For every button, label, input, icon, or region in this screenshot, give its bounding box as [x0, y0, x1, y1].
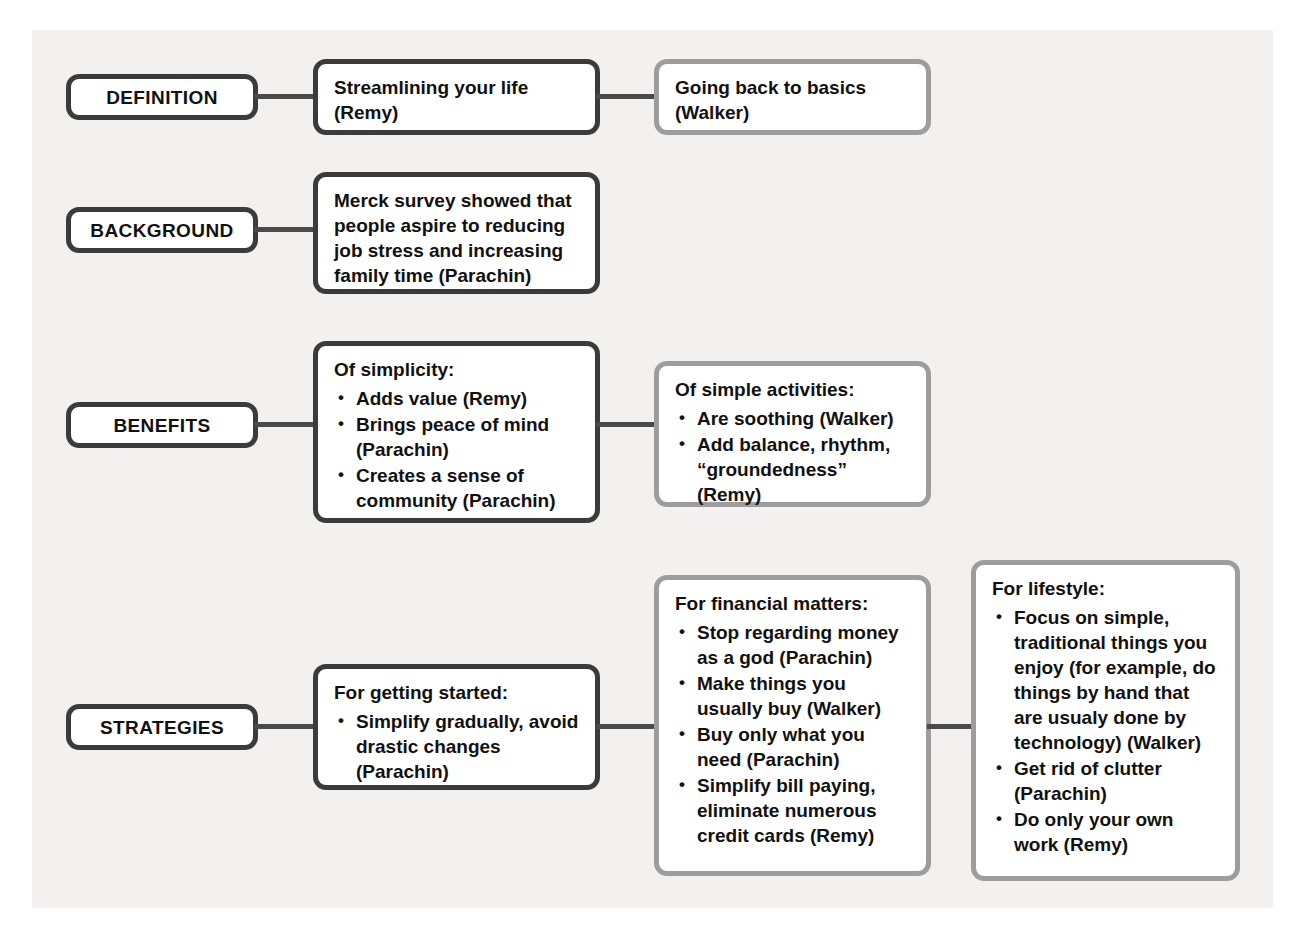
node-heading: For financial matters:: [675, 591, 912, 616]
connector-definition-to-box1: [254, 94, 316, 99]
category-label-text: STRATEGIES: [100, 715, 224, 740]
node-strategies-financial-matters: For financial matters: Stop regarding mo…: [654, 575, 931, 876]
node-heading: For getting started:: [334, 680, 581, 705]
category-label-text: BACKGROUND: [90, 218, 233, 243]
node-bullet-item: Adds value (Remy): [334, 386, 581, 411]
node-benefits-simple-activities: Of simple activities: Are soothing (Walk…: [654, 361, 931, 507]
connector-benefits-to-box1: [254, 422, 316, 427]
node-definition-streamlining: Streamlining your life (Remy): [313, 59, 600, 135]
node-bullet-list: Are soothing (Walker)Add balance, rhythm…: [675, 406, 912, 507]
connector-definition-box1-to-box2: [596, 94, 658, 99]
node-bullet-item: Simplify gradually, avoid drastic change…: [334, 709, 581, 784]
node-bullet-item: Make things you usually buy (Walker): [675, 671, 912, 721]
node-bullet-item: Simplify bill paying, eliminate numerous…: [675, 773, 912, 848]
node-bullet-item: Creates a sense of community (Parachin): [334, 463, 581, 513]
node-bullet-list: Simplify gradually, avoid drastic change…: [334, 709, 581, 784]
connector-strategies-box1-to-box2: [596, 724, 658, 729]
category-label-background: BACKGROUND: [66, 207, 258, 253]
node-bullet-item: Focus on simple, traditional things you …: [992, 605, 1221, 755]
node-definition-basics: Going back to basics (Walker): [654, 59, 931, 135]
node-background-merck-survey: Merck survey showed that people aspire t…: [313, 172, 600, 294]
category-label-text: DEFINITION: [106, 85, 218, 110]
node-bullet-item: Add balance, rhythm, “groundedness” (Rem…: [675, 432, 912, 507]
category-label-benefits: BENEFITS: [66, 402, 258, 448]
connector-benefits-box1-to-box2: [596, 422, 658, 427]
node-benefits-of-simplicity: Of simplicity: Adds value (Remy)Brings p…: [313, 341, 600, 523]
node-bullet-list: Stop regarding money as a god (Parachin)…: [675, 620, 912, 848]
node-bullet-item: Get rid of clutter (Parachin): [992, 756, 1221, 806]
node-text: Streamlining your life (Remy): [334, 75, 581, 125]
node-strategies-lifestyle: For lifestyle: Focus on simple, traditio…: [971, 560, 1240, 881]
node-text: Going back to basics (Walker): [675, 75, 912, 125]
connector-strategies-to-box1: [254, 724, 316, 729]
node-heading: For lifestyle:: [992, 576, 1221, 601]
connector-strategies-box2-to-box3: [927, 724, 975, 729]
category-label-definition: DEFINITION: [66, 74, 258, 120]
node-heading: Of simple activities:: [675, 377, 912, 402]
node-bullet-item: Buy only what you need (Parachin): [675, 722, 912, 772]
concept-map-canvas: DEFINITION Streamlining your life (Remy)…: [0, 0, 1303, 940]
connector-background-to-box1: [254, 227, 316, 232]
node-strategies-getting-started: For getting started: Simplify gradually,…: [313, 664, 600, 790]
category-label-text: BENEFITS: [113, 413, 210, 438]
node-bullet-item: Brings peace of mind (Parachin): [334, 412, 581, 462]
node-heading: Of simplicity:: [334, 357, 581, 382]
node-text: Merck survey showed that people aspire t…: [334, 188, 581, 288]
node-bullet-item: Do only your own work (Remy): [992, 807, 1221, 857]
node-bullet-item: Are soothing (Walker): [675, 406, 912, 431]
node-bullet-list: Adds value (Remy)Brings peace of mind (P…: [334, 386, 581, 513]
node-bullet-item: Stop regarding money as a god (Parachin): [675, 620, 912, 670]
node-bullet-list: Focus on simple, traditional things you …: [992, 605, 1221, 857]
category-label-strategies: STRATEGIES: [66, 704, 258, 750]
